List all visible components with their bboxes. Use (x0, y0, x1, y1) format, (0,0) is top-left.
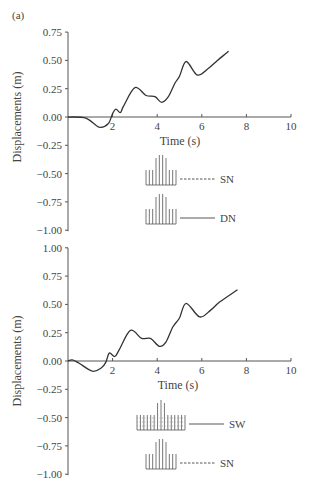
legend-label: SW (229, 418, 246, 430)
legend-item: DN (146, 194, 236, 224)
x-tick-label: 8 (244, 364, 250, 376)
x-tick-label: 10 (286, 120, 298, 132)
legend-label: SN (220, 173, 234, 185)
legend-label: DN (220, 212, 236, 224)
y-tick-label: 0.25 (43, 327, 63, 339)
legend-item: SN (146, 439, 234, 469)
data-line (68, 290, 238, 372)
x-tick-label: 8 (244, 120, 250, 132)
x-tick-label: 6 (199, 364, 205, 376)
y-tick-label: 0.00 (43, 355, 63, 367)
y-tick-label: −0.25 (37, 383, 63, 395)
x-tick-label: 10 (286, 364, 298, 376)
x-tick-label: 4 (154, 120, 160, 132)
data-line (68, 51, 229, 127)
x-tick-label: 2 (110, 364, 116, 376)
y-tick-label: 1.00 (43, 242, 63, 254)
y-tick-label: −0.75 (37, 196, 63, 208)
y-tick-label: −0.75 (37, 440, 63, 452)
y-tick-label: 0.25 (43, 83, 63, 95)
x-tick-label: 6 (199, 120, 205, 132)
y-tick-label: 0.00 (43, 111, 63, 123)
y-tick-label: 0.50 (43, 54, 63, 66)
x-tick-label: 2 (110, 120, 116, 132)
chart-bottom: 1.000.750.500.250.00−0.25−0.50−0.75−1.00… (10, 242, 297, 480)
y-axis-title: Displacements (m) (10, 316, 24, 407)
panel-label: (a) (12, 9, 25, 22)
y-tick-label: −1.00 (37, 224, 63, 236)
legend-item: SN (146, 155, 234, 185)
legend-label: SN (220, 457, 234, 469)
x-axis-title: Time (s) (158, 378, 199, 392)
y-tick-label: 0.50 (43, 298, 63, 310)
y-tick-label: −0.50 (37, 412, 63, 424)
y-tick-label: −0.50 (37, 168, 63, 180)
y-tick-label: 0.75 (43, 26, 63, 38)
figure: (a) 0.750.500.250.00−0.25−0.50−0.75−1.00… (0, 0, 313, 490)
y-tick-label: 0.75 (43, 270, 63, 282)
chart-top: 0.750.500.250.00−0.25−0.50−0.75−1.002468… (10, 26, 297, 236)
legend-item: SW (137, 400, 246, 430)
y-axis-title: Displacements (m) (10, 72, 24, 163)
y-tick-label: −1.00 (37, 468, 63, 480)
y-tick-label: −0.25 (37, 139, 63, 151)
x-tick-label: 4 (154, 364, 160, 376)
x-axis-title: Time (s) (160, 134, 201, 148)
